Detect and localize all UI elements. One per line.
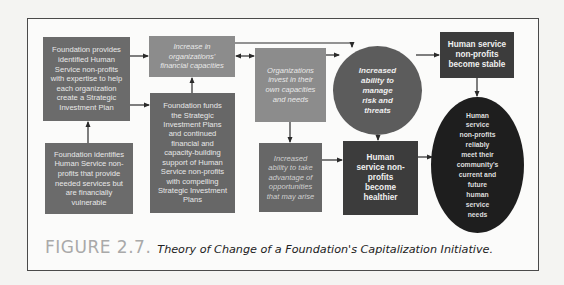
node-identifies-nonprofits: Foundation identifies Human Service non-… bbox=[45, 143, 133, 214]
node-text-line: Strategic Investment bbox=[158, 186, 227, 195]
node-text-line: Human bbox=[457, 111, 499, 121]
node-text-line: Organizations bbox=[266, 66, 316, 76]
node-text-line: service bbox=[457, 120, 499, 130]
node-text-line: that may arise bbox=[267, 192, 315, 202]
node-text-line: become bbox=[356, 183, 404, 193]
node-text-line: Increase in bbox=[160, 42, 224, 52]
node-text-line: future bbox=[457, 180, 499, 190]
node-text-line: own capacities bbox=[266, 85, 316, 95]
node-become-healthier: Human service non- profits become health… bbox=[343, 141, 418, 215]
node-text-line: profits bbox=[356, 173, 404, 183]
node-text-line: meet their bbox=[457, 150, 499, 160]
node-text-line: create a Strategic bbox=[51, 93, 122, 103]
node-text-line: current and bbox=[457, 170, 499, 180]
node-text-line: community's bbox=[457, 160, 499, 170]
node-text-line: Increased bbox=[359, 66, 396, 76]
node-text-line: reliably bbox=[457, 140, 499, 150]
node-text-line: service bbox=[457, 200, 499, 210]
node-text-line: manage bbox=[359, 86, 396, 96]
node-text-line: opportunities bbox=[267, 182, 315, 192]
node-text-line: Investment Plans bbox=[158, 120, 227, 129]
node-text-line: Foundation provides bbox=[51, 45, 122, 55]
node-text-line: healthier bbox=[356, 193, 404, 203]
node-text-line: Plans bbox=[158, 195, 227, 204]
node-text-line: with compelling bbox=[158, 177, 227, 186]
node-text-line: the Strategic bbox=[158, 111, 227, 120]
node-text-line: financial and bbox=[158, 139, 227, 148]
node-take-advantage-opportunities: Increased ability to take advantage of o… bbox=[259, 143, 322, 212]
node-text-line: ability to bbox=[359, 76, 396, 86]
node-text-line: Increased bbox=[267, 154, 315, 164]
figure-caption: FIGURE 2.7.Theory of Change of a Foundat… bbox=[45, 237, 493, 257]
node-text-line: human bbox=[457, 190, 499, 200]
node-provides-expertise: Foundation provides identified Human Ser… bbox=[43, 37, 130, 121]
node-text-line: risk and bbox=[359, 96, 396, 106]
node-text-line: Foundation identifies bbox=[54, 150, 124, 160]
node-text-line: non-profits bbox=[457, 130, 499, 140]
node-increase-financial-capacities: Increase in organizations' financial cap… bbox=[149, 36, 235, 77]
node-text-line: ability to take bbox=[267, 163, 315, 173]
node-text-line: service non- bbox=[356, 163, 404, 173]
node-text-line: identified Human bbox=[51, 55, 122, 65]
node-text-line: invest in their bbox=[266, 75, 316, 85]
figure-title: Theory of Change of a Foundation's Capit… bbox=[157, 243, 493, 256]
node-invest-own-capacities: Organizations invest in their own capaci… bbox=[255, 48, 326, 122]
node-text-line: Investment Plan bbox=[51, 103, 122, 113]
node-text-line: vulnerable bbox=[54, 198, 124, 208]
node-text-line: are financially bbox=[54, 188, 124, 198]
node-become-stable: Human service non-profits become stable bbox=[440, 32, 514, 78]
node-text-line: Human service bbox=[448, 40, 506, 50]
node-text-line: and continued bbox=[158, 129, 227, 138]
node-text-line: Service non-profits bbox=[51, 65, 122, 75]
node-funds-plans: Foundation funds the Strategic Investmen… bbox=[150, 93, 235, 213]
node-text-line: capacity-building bbox=[158, 148, 227, 157]
node-text-line: support of Human bbox=[158, 158, 227, 167]
node-text-line: Human Service non- bbox=[54, 159, 124, 169]
node-text-line: needed services but bbox=[54, 179, 124, 189]
node-text-line: organizations' bbox=[160, 52, 224, 62]
figure-label: FIGURE 2.7. bbox=[45, 237, 151, 257]
node-text-line: become stable bbox=[448, 60, 506, 70]
node-text-line: and needs bbox=[266, 95, 316, 105]
node-text-line: Human bbox=[356, 153, 404, 163]
node-text-line: financial capacities bbox=[160, 61, 224, 71]
node-text-line: needs bbox=[457, 210, 499, 220]
node-text-line: with expertise to help bbox=[51, 74, 122, 84]
node-text-line: Foundation funds bbox=[158, 101, 227, 110]
node-text-line: non-profits bbox=[448, 50, 506, 60]
node-text-line: profits that provide bbox=[54, 169, 124, 179]
node-text-line: threats bbox=[359, 106, 396, 116]
node-text-line: advantage of bbox=[267, 173, 315, 183]
node-text-line: Service non-profits bbox=[158, 167, 227, 176]
node-manage-risk: Increased ability to manage risk and thr… bbox=[333, 46, 422, 135]
node-text-line: each organization bbox=[51, 84, 122, 94]
node-meet-needs: Human service non-profits reliably meet … bbox=[431, 97, 524, 233]
